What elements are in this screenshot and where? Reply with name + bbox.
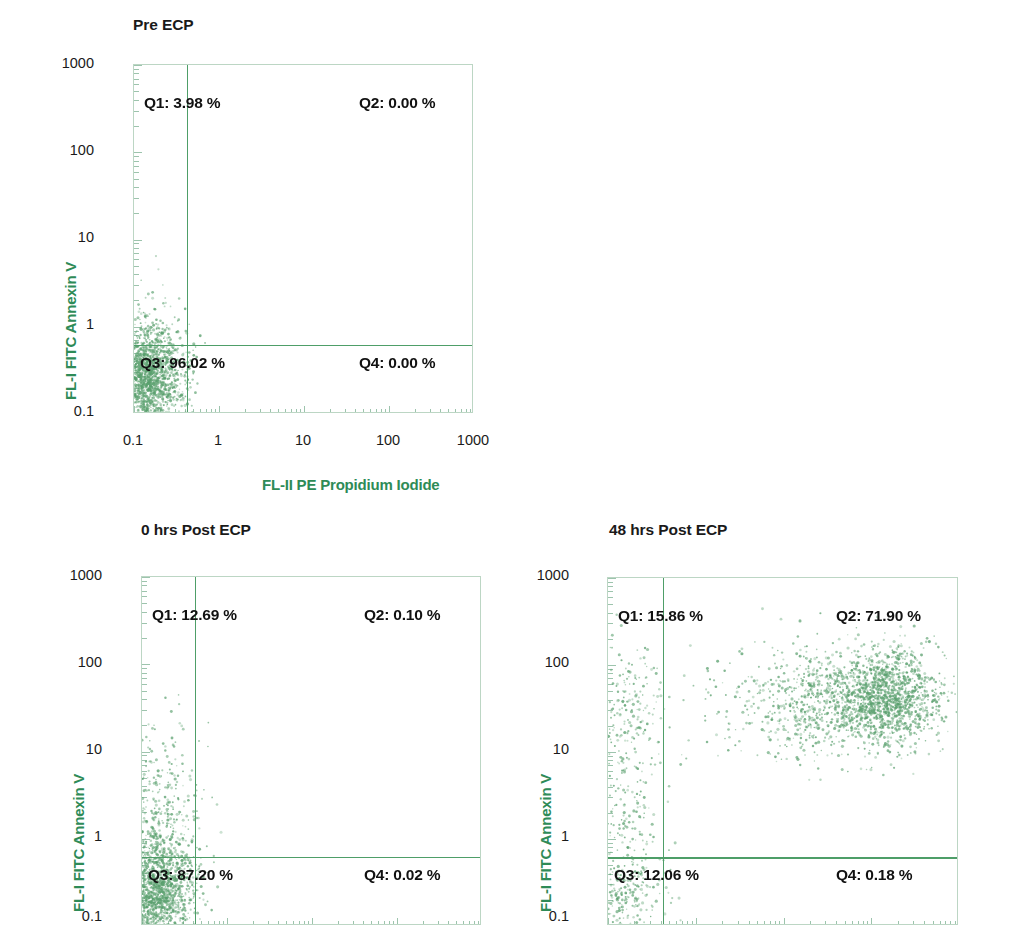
quadrant-label-q4: Q4: 0.02 %	[364, 866, 440, 884]
y-tick-1000: 1000	[44, 55, 94, 71]
y-tick-mark	[134, 69, 139, 70]
x-tick-mark	[474, 921, 475, 925]
y-tick-0.1: 0.1	[44, 403, 94, 419]
y-tick-mark	[608, 623, 613, 624]
quadrant-label-q3: Q3: 87.20 %	[148, 866, 233, 884]
x-tick-mark	[381, 409, 382, 413]
y-tick-10: 10	[52, 741, 102, 757]
y-tick-mark	[608, 765, 613, 766]
y-tick-mark	[134, 65, 142, 66]
y-tick-mark	[608, 700, 613, 701]
x-tick-mark	[871, 918, 872, 925]
y-tick-mark	[134, 372, 139, 373]
y-tick-mark	[608, 874, 613, 875]
y-tick-mark	[142, 884, 147, 885]
y-tick-mark	[134, 327, 142, 328]
quadrant-label-q1: Q1: 12.69 %	[152, 606, 237, 624]
x-tick-mark	[389, 406, 390, 413]
y-tick-mark	[142, 812, 147, 813]
x-tick-mark	[696, 918, 697, 925]
y-tick-1000: 1000	[52, 567, 102, 583]
x-tick-mark	[385, 409, 386, 413]
y-tick-mark	[142, 691, 147, 692]
y-tick-mark	[142, 786, 147, 787]
dotplot-pre-ecp[interactable]: Q1: 3.98 % Q2: 0.00 % Q3: 96.02 % Q4: 0.…	[133, 64, 473, 413]
x-tick-mark	[227, 918, 228, 925]
y-tick-mark	[142, 765, 147, 766]
x-tick-1000: 1000	[448, 432, 498, 448]
dotplot-48hrs-post-ecp[interactable]: Q1: 15.86 % Q2: 71.90 % Q3: 12.06 % Q4: …	[607, 577, 958, 925]
y-tick-mark	[142, 778, 147, 779]
x-tick-mark	[661, 921, 662, 925]
x-tick-mark	[456, 921, 457, 925]
y-tick-mark	[608, 678, 613, 679]
x-tick-mark	[950, 921, 951, 925]
y-tick-mark	[134, 152, 142, 153]
x-tick-mark	[206, 409, 207, 413]
y-tick-mark	[134, 198, 139, 199]
y-tick-mark	[142, 752, 150, 753]
y-tick-mark	[608, 684, 613, 685]
y-tick-mark	[142, 612, 147, 613]
x-tick-mark	[200, 409, 201, 413]
y-tick-mark	[142, 839, 150, 840]
y-tick-1: 1	[52, 828, 102, 844]
y-tick-mark	[134, 331, 139, 332]
y-tick-mark	[608, 591, 613, 592]
y-tick-mark	[608, 771, 613, 772]
panel-title-pre-ecp: Pre ECP	[133, 16, 193, 34]
x-tick-mark	[353, 921, 354, 925]
x-tick-mark	[779, 921, 780, 925]
y-tick-mark	[134, 111, 139, 112]
y-tick-mark	[134, 187, 139, 188]
y-tick-mark	[134, 100, 139, 101]
x-tick-1: 1	[193, 432, 243, 448]
x-tick-mark	[852, 921, 853, 925]
x-tick-mark	[300, 409, 301, 413]
x-tick-mark	[924, 921, 925, 925]
x-tick-10: 10	[278, 432, 328, 448]
y-tick-mark	[134, 340, 139, 341]
y-tick-mark	[134, 172, 139, 173]
y-tick-mark	[142, 699, 147, 700]
x-tick-mark	[183, 921, 184, 925]
quadrant-label-q2: Q2: 71.90 %	[836, 607, 921, 625]
y-tick-mark	[134, 266, 139, 267]
x-tick-mark	[219, 921, 220, 925]
y-tick-mark	[134, 79, 139, 80]
dotplot-0hrs-post-ecp[interactable]: Q1: 12.69 % Q2: 0.10 % Q3: 87.20 % Q4: 0…	[141, 576, 481, 925]
x-tick-mark	[214, 921, 215, 925]
x-tick-mark	[134, 406, 135, 413]
x-tick-mark	[470, 409, 471, 413]
y-tick-mark	[608, 582, 613, 583]
y-tick-mark	[134, 285, 139, 286]
y-tick-10: 10	[44, 229, 94, 245]
x-tick-mark	[448, 409, 449, 413]
x-tick-mark	[175, 409, 176, 413]
y-tick-mark	[608, 613, 613, 614]
x-tick-mark	[285, 409, 286, 413]
y-tick-mark	[134, 73, 139, 74]
x-tick-mark	[448, 921, 449, 925]
x-tick-mark	[810, 921, 811, 925]
x-tick-mark	[775, 921, 776, 925]
y-tick-mark	[142, 581, 147, 582]
y-tick-mark	[142, 900, 147, 901]
x-tick-mark	[304, 406, 305, 413]
y-tick-mark	[608, 691, 613, 692]
x-tick-mark	[330, 409, 331, 413]
y-tick-mark	[608, 665, 616, 666]
y-tick-mark	[142, 771, 147, 772]
x-tick-mark	[466, 409, 467, 413]
y-tick-mark	[134, 243, 139, 244]
x-tick-mark	[440, 409, 441, 413]
x-axis-title: FL-II PE Propidium Iodide	[262, 476, 440, 493]
y-tick-mark	[142, 865, 147, 866]
y-tick-mark	[608, 586, 613, 587]
y-tick-mark	[142, 873, 147, 874]
x-tick-mark	[867, 921, 868, 925]
y-tick-mark	[608, 778, 613, 779]
y-tick-mark	[142, 623, 147, 624]
x-tick-mark	[764, 921, 765, 925]
y-tick-mark	[142, 585, 147, 586]
